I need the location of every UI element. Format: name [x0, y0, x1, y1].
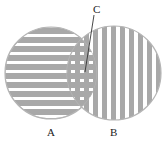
label-a: A	[47, 126, 55, 138]
venn-diagram: C A B	[0, 0, 167, 143]
label-c: C	[93, 3, 100, 15]
label-b: B	[110, 126, 117, 138]
